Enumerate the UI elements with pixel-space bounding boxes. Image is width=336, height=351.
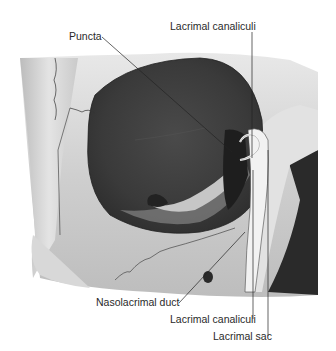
label-lacrimal-canaliculi-top: Lacrimal canaliculi xyxy=(170,21,256,32)
label-nasolacrimal-duct: Nasolacrimal duct xyxy=(96,297,179,308)
lacrimal-anatomy-illustration: Puncta Lacrimal canaliculi Nasolacrimal … xyxy=(0,0,336,351)
label-lacrimal-sac: Lacrimal sac xyxy=(213,331,272,342)
label-lacrimal-canaliculi-bottom: Lacrimal canaliculi xyxy=(170,314,256,325)
label-puncta: Puncta xyxy=(69,31,102,42)
